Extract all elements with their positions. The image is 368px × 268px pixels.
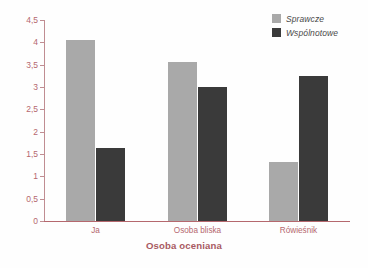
bar xyxy=(168,62,197,221)
y-axis-tick-mark xyxy=(40,109,44,110)
y-axis-tick-mark xyxy=(40,154,44,155)
y-axis-tick-mark xyxy=(40,199,44,200)
y-axis-tick-label: 4,5 xyxy=(26,16,38,25)
y-axis-tick-mark xyxy=(40,42,44,43)
bar xyxy=(198,87,227,221)
x-axis-category-label: Rówieśnik xyxy=(280,227,317,235)
x-axis-line xyxy=(44,221,350,222)
y-axis-tick-mark xyxy=(40,20,44,21)
bar xyxy=(299,76,328,221)
x-axis-category-label: Ja xyxy=(91,227,100,235)
y-axis-tick-label: 3 xyxy=(33,83,38,92)
y-axis-tick-mark xyxy=(40,221,44,222)
bar xyxy=(66,40,95,221)
y-axis-tick-label: 2 xyxy=(33,127,38,136)
bar xyxy=(269,162,298,221)
plot-area: 00,511,522,533,544,5 xyxy=(44,20,350,222)
y-axis-tick-label: 0 xyxy=(33,217,38,226)
bar-group xyxy=(269,20,328,221)
bar-group xyxy=(168,20,227,221)
y-axis-tick-label: 1,5 xyxy=(26,150,38,159)
y-axis-line xyxy=(44,20,45,222)
y-axis-tick-label: 1 xyxy=(33,172,38,181)
y-axis-tick-mark xyxy=(40,87,44,88)
bar-group xyxy=(66,20,125,221)
y-axis-tick-label: 2,5 xyxy=(26,105,38,114)
x-axis-category-label: Osoba bliska xyxy=(174,227,221,235)
x-axis-title: Osoba oceniana xyxy=(0,240,368,251)
bar xyxy=(96,148,125,221)
y-axis-tick-mark xyxy=(40,132,44,133)
y-axis-tick-mark xyxy=(40,176,44,177)
y-axis-tick-mark xyxy=(40,65,44,66)
y-axis-tick-label: 0,5 xyxy=(26,194,38,203)
bar-chart: Sprawcze Wspólnotowe 00,511,522,533,544,… xyxy=(0,0,368,268)
y-axis-tick-label: 3,5 xyxy=(26,60,38,69)
y-axis-tick-label: 4 xyxy=(33,38,38,47)
